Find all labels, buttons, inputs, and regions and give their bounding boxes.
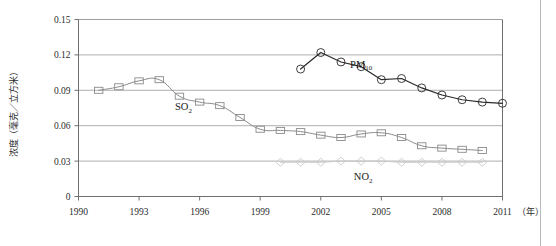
y-axis-title: 浓度（毫克／立方米） [8, 67, 19, 157]
chart-figure: 00.030.060.090.120.15 199019931996199920… [0, 0, 556, 246]
x-tick-label-1999: 1999 [251, 207, 270, 217]
x-tick-label-1990: 1990 [69, 207, 88, 217]
series-label-main-SO2: SO [175, 101, 189, 112]
x-tick-label-1996: 1996 [190, 207, 209, 217]
x-axis-unit-note: （年） [517, 206, 544, 217]
series-label-sub-PM10: 10 [365, 64, 373, 72]
y-tick-label-0.03: 0.03 [54, 157, 71, 167]
y-tick-label-0: 0 [66, 192, 71, 202]
y-tick-label-0.15: 0.15 [54, 15, 71, 25]
series-label-sub-NO2: 2 [369, 177, 373, 185]
series-label-main-NO2: NO [354, 171, 370, 182]
x-tick-label-2002: 2002 [311, 207, 330, 217]
x-tick-label-2011: 2011 [493, 207, 512, 217]
emissions-line-chart: 00.030.060.090.120.15 199019931996199920… [0, 0, 556, 246]
axis-titles: 浓度（毫克／立方米） [8, 67, 19, 157]
y-tick-label-0.12: 0.12 [54, 50, 71, 60]
series-label-main-PM10: PM [350, 59, 366, 70]
y-tick-label-0.09: 0.09 [54, 86, 71, 96]
x-tick-label-1993: 1993 [130, 207, 149, 217]
y-tick-label-0.06: 0.06 [54, 121, 71, 131]
x-tick-label-2005: 2005 [372, 207, 391, 217]
series-label-sub-SO2: 2 [188, 107, 192, 115]
x-tick-label-2008: 2008 [432, 207, 451, 217]
